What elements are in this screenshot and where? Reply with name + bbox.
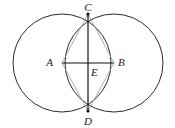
point-label-D: D <box>83 115 92 127</box>
figure-canvas: A B C D E <box>0 0 175 128</box>
point-D-marker <box>86 109 89 112</box>
point-label-C: C <box>84 1 92 13</box>
point-label-E: E <box>90 66 98 78</box>
geometry-figure: A B C D E <box>0 0 175 128</box>
point-label-B: B <box>118 56 125 68</box>
point-label-A: A <box>45 56 53 68</box>
